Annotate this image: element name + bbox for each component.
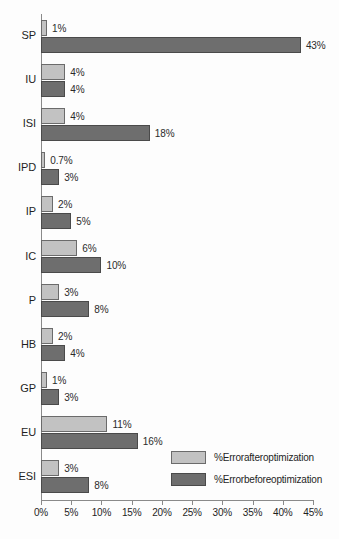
bar-value-label: 1%: [52, 375, 66, 386]
x-tick-label: 30%: [205, 507, 239, 518]
x-tick: [162, 500, 163, 505]
bar: [41, 477, 89, 493]
bar-value-label: 16%: [143, 436, 163, 447]
bar-value-label: 8%: [94, 480, 108, 491]
x-axis-line: [41, 500, 313, 501]
bar: [41, 345, 65, 361]
x-tick-label: 20%: [145, 507, 179, 518]
bar-group: 0.7%3%: [41, 152, 313, 185]
bar-row: 1%: [41, 20, 313, 36]
bar: [41, 81, 65, 97]
bar-value-label: 10%: [106, 260, 126, 271]
bar: [41, 37, 301, 53]
x-tick: [41, 500, 42, 505]
bar-row: 0.7%: [41, 152, 313, 168]
bar-value-label: 8%: [94, 304, 108, 315]
bar-row: 4%: [41, 108, 313, 124]
bar: [41, 301, 89, 317]
x-tick: [101, 500, 102, 505]
category-label-gp: GP: [0, 382, 36, 394]
bar-value-label: 4%: [70, 110, 84, 121]
x-tick-label: 35%: [236, 507, 270, 518]
category-label-iu: IU: [0, 73, 36, 85]
bar: [41, 389, 59, 405]
bar-value-label: 5%: [76, 215, 90, 226]
category-label-ic: IC: [0, 250, 36, 262]
bar: [41, 433, 138, 449]
category-label-isi: ISI: [0, 117, 36, 129]
bar-row: 8%: [41, 301, 313, 317]
category-label-eu: EU: [0, 426, 36, 438]
bar: [41, 169, 59, 185]
legend-label-before: %Errorbeforeoptimization: [214, 474, 322, 485]
bar-row: 4%: [41, 64, 313, 80]
x-tick: [132, 500, 133, 505]
legend-swatch-after-icon: [171, 451, 206, 464]
bar-value-label: 3%: [64, 463, 78, 474]
bar-row: 2%: [41, 196, 313, 212]
bar: [41, 416, 107, 432]
bar: [41, 108, 65, 124]
horizontal-bar-chart: 1%43%4%4%4%18%0.7%3%2%5%6%10%3%8%2%4%1%3…: [0, 0, 339, 539]
bar-row: 3%: [41, 389, 313, 405]
category-label-ip: IP: [0, 205, 36, 217]
bar-value-label: 6%: [82, 243, 96, 254]
bar-group: 3%8%: [41, 284, 313, 317]
bar-row: 6%: [41, 240, 313, 256]
x-tick: [313, 500, 314, 505]
bar: [41, 20, 47, 36]
category-label-sp: SP: [0, 29, 36, 41]
bar-group: 2%5%: [41, 196, 313, 229]
bar-row: 4%: [41, 81, 313, 97]
bar: [41, 460, 59, 476]
bar: [41, 372, 47, 388]
bar: [41, 328, 53, 344]
x-tick-label: 10%: [84, 507, 118, 518]
bar: [41, 125, 150, 141]
category-label-p: P: [0, 294, 36, 306]
bar: [41, 213, 71, 229]
bar-group: 2%4%: [41, 328, 313, 361]
x-tick: [283, 500, 284, 505]
bar-group: 4%18%: [41, 108, 313, 141]
bar-group: 1%43%: [41, 20, 313, 53]
x-tick: [222, 500, 223, 505]
x-tick-label: 25%: [175, 507, 209, 518]
bar-value-label: 1%: [52, 22, 66, 33]
category-label-hb: HB: [0, 338, 36, 350]
legend-label-after: %Errorafteroptimization: [214, 452, 314, 463]
bar-group: 11%16%: [41, 416, 313, 449]
x-tick-label: 45%: [296, 507, 330, 518]
category-label-esi: ESI: [0, 470, 36, 482]
bar-row: 11%: [41, 416, 313, 432]
x-tick-label: 15%: [115, 507, 149, 518]
bar-row: 43%: [41, 37, 313, 53]
x-tick: [253, 500, 254, 505]
x-tick: [192, 500, 193, 505]
bar-row: 18%: [41, 125, 313, 141]
bar-group: 1%3%: [41, 372, 313, 405]
category-label-ipd: IPD: [0, 161, 36, 173]
bar: [41, 284, 59, 300]
bar-value-label: 4%: [70, 66, 84, 77]
bar-value-label: 2%: [58, 331, 72, 342]
bar-row: 16%: [41, 433, 313, 449]
bar: [41, 196, 53, 212]
x-tick-label: 40%: [266, 507, 300, 518]
bar-group: 4%4%: [41, 64, 313, 97]
x-tick: [71, 500, 72, 505]
bar-value-label: 11%: [112, 419, 131, 430]
legend-item-after: %Errorafteroptimization: [171, 449, 322, 466]
bar: [41, 152, 45, 168]
bar-value-label: 4%: [70, 348, 84, 359]
legend-item-before: %Errorbeforeoptimization: [171, 471, 322, 488]
x-tick-label: 0%: [24, 507, 58, 518]
bar-row: 3%: [41, 284, 313, 300]
plot-area: 1%43%4%4%4%18%0.7%3%2%5%6%10%3%8%2%4%1%3…: [41, 14, 313, 499]
bar-row: 2%: [41, 328, 313, 344]
bar-row: 10%: [41, 257, 313, 273]
bar-row: 3%: [41, 169, 313, 185]
chart-legend: %Errorafteroptimization %Errorbeforeopti…: [171, 449, 322, 493]
bar-value-label: 3%: [64, 287, 78, 298]
legend-swatch-before-icon: [171, 473, 206, 486]
